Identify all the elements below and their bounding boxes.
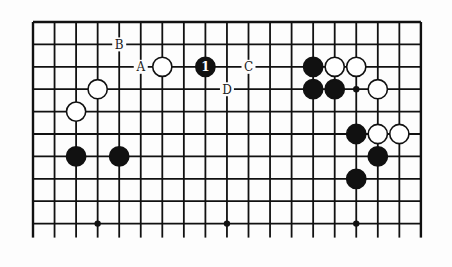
black-stone-icon <box>368 147 387 166</box>
stones: 1 <box>67 57 409 188</box>
point-label-b: B <box>115 38 124 52</box>
white-stone-icon <box>325 57 344 76</box>
white-stone-icon <box>153 57 172 76</box>
black-stone-icon <box>347 169 366 188</box>
white-stone-icon <box>67 102 86 121</box>
black-stone-icon: 1 <box>196 57 215 76</box>
black-stone-icon <box>110 147 129 166</box>
go-board: 1 ABCD <box>0 0 452 267</box>
star-point-icon <box>353 220 359 226</box>
white-stone-icon <box>368 124 387 143</box>
white-stone-icon <box>390 124 409 143</box>
white-stone-icon <box>88 80 107 99</box>
black-stone-icon <box>67 147 86 166</box>
white-stone-icon <box>347 57 366 76</box>
star-point-icon <box>224 220 230 226</box>
move-number-label: 1 <box>201 60 209 74</box>
star-point-icon <box>94 220 100 226</box>
point-label-c: C <box>244 60 253 74</box>
white-stone-icon <box>368 80 387 99</box>
point-label-a: A <box>135 60 145 74</box>
black-stone-icon <box>347 124 366 143</box>
point-label-d: D <box>222 83 232 97</box>
black-stone-icon <box>325 80 344 99</box>
black-stone-icon <box>304 80 323 99</box>
black-stone-icon <box>304 57 323 76</box>
star-point-icon <box>353 86 359 92</box>
